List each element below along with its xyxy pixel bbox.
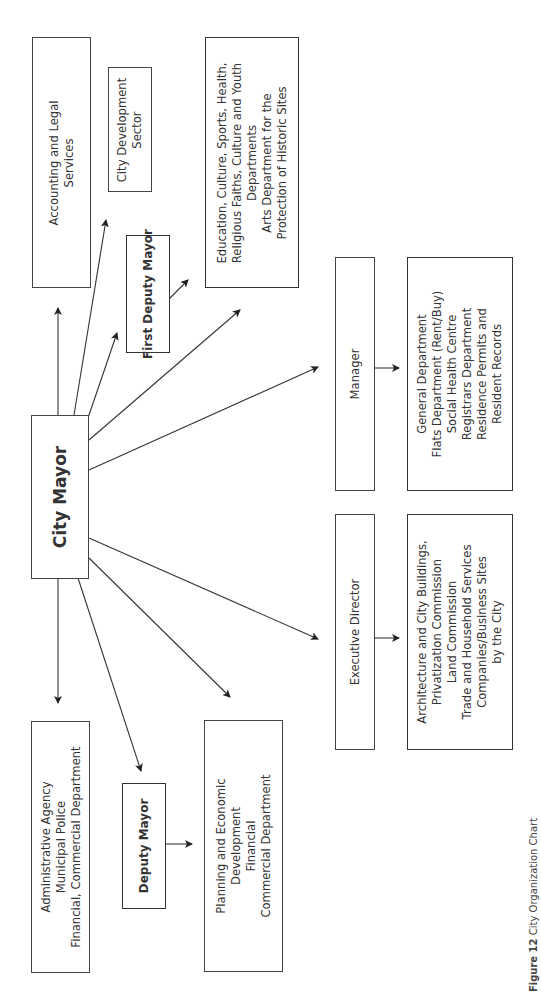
node-planning: Planning and Economic Development Financ… (204, 720, 283, 972)
edge-first-deputy-education (169, 280, 188, 299)
node-executive-director: Executive Director (335, 514, 375, 750)
node-label: Deputy Mayor (137, 799, 152, 894)
node-accounting: Accounting and Legal Services (32, 37, 91, 288)
node-label: Planning and Economic Development Financ… (214, 774, 274, 917)
node-label: Administrative Agency Municipal Police F… (38, 746, 83, 947)
edge-mayor-first-deputy (88, 333, 117, 418)
node-executive-departments: Architecture and City Buildings, Privati… (407, 514, 513, 750)
node-label: General Department Flats Department (Ren… (415, 291, 505, 458)
node-label: City Development Sector (115, 77, 145, 181)
node-manager-departments: General Department Flats Department (Ren… (407, 257, 513, 491)
node-city-mayor: City Mayor (31, 415, 89, 579)
edge-mayor-manager (89, 367, 318, 470)
node-label: First Deputy Mayor (141, 229, 156, 359)
figure-caption: Figure 12 City Organization Chart (528, 818, 539, 992)
node-city-development: City Development Sector (108, 67, 152, 192)
node-label: City Mayor (53, 446, 68, 548)
node-label: Manager (348, 349, 363, 400)
edge-mayor-executive (89, 538, 318, 639)
node-first-deputy-mayor: First Deputy Mayor (126, 235, 170, 353)
node-label: Accounting and Legal Services (47, 100, 77, 225)
node-label: Architecture and City Buildings, Privati… (415, 540, 505, 723)
node-deputy-mayor: Deputy Mayor (122, 783, 166, 909)
node-label: Education, Culture, Sports, Health, Reli… (215, 62, 290, 263)
node-label: Executive Director (348, 579, 363, 686)
figure-label: Figure 12 (528, 938, 539, 992)
figure-caption-text: City Organization Chart (528, 818, 539, 935)
node-manager: Manager (335, 257, 375, 491)
node-education: Education, Culture, Sports, Health, Reli… (205, 37, 299, 288)
node-administrative: Administrative Agency Municipal Police F… (31, 721, 90, 973)
